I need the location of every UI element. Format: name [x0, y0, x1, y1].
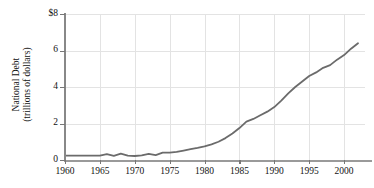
chart-figure: National Debt (trillions of dollars) 024… — [0, 0, 374, 188]
series-line-national-debt — [65, 43, 358, 156]
y-tick-mark-8 — [60, 14, 65, 15]
x-tick-mark-1995 — [309, 160, 310, 164]
y-tick-label-2: 2 — [30, 117, 58, 127]
series-national-debt — [65, 14, 365, 160]
y-tick-label-0: 0 — [30, 154, 58, 164]
x-tick-mark-1960 — [65, 160, 66, 164]
x-tick-mark-1990 — [274, 160, 275, 164]
y-tick-mark-6 — [60, 51, 65, 52]
y-tick-label-6: 6 — [30, 44, 58, 54]
x-tick-mark-1965 — [100, 160, 101, 164]
x-tick-label-2000: 2000 — [324, 166, 364, 176]
y-tick-label-4: 4 — [30, 81, 58, 91]
y-tick-mark-4 — [60, 87, 65, 88]
x-tick-mark-1975 — [170, 160, 171, 164]
x-tick-mark-2000 — [344, 160, 345, 164]
y-tick-mark-2 — [60, 124, 65, 125]
x-tick-mark-1980 — [205, 160, 206, 164]
x-tick-mark-1970 — [135, 160, 136, 164]
y-axis-title-line-1: National Debt — [10, 48, 21, 122]
x-axis-spine — [64, 160, 372, 162]
y-tick-label-8: $8 — [30, 8, 58, 18]
plot-area — [65, 14, 365, 160]
x-tick-mark-1985 — [239, 160, 240, 164]
y-axis-title-text: National Debt (trillions of dollars) — [10, 48, 31, 122]
